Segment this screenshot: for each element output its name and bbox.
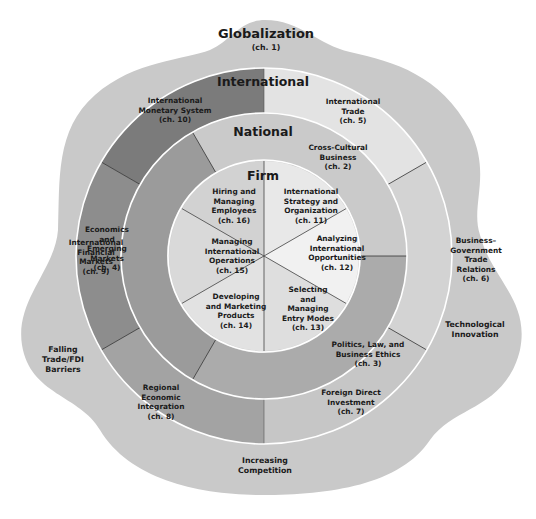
svg-text:Operations: Operations: [209, 256, 256, 265]
svg-text:(ch. 5): (ch. 5): [340, 116, 367, 125]
national-title: National: [233, 124, 292, 139]
svg-text:Barriers: Barriers: [45, 365, 81, 374]
svg-text:Business Ethics: Business Ethics: [336, 350, 401, 359]
globalization-chapter: (ch. 1): [252, 43, 280, 52]
svg-text:Business–: Business–: [456, 236, 497, 245]
svg-text:Selecting: Selecting: [289, 285, 328, 294]
svg-text:Increasing: Increasing: [242, 456, 288, 465]
svg-text:(ch. 10): (ch. 10): [159, 115, 191, 124]
force-increasing-competition: Increasing Competition: [238, 456, 292, 475]
svg-text:Trade: Trade: [341, 107, 364, 116]
svg-text:Analyzing: Analyzing: [317, 234, 358, 243]
svg-text:(ch. 16): (ch. 16): [218, 216, 250, 225]
svg-text:(ch. 11): (ch. 11): [295, 216, 327, 225]
svg-text:Economic: Economic: [141, 393, 180, 402]
international-title: International: [217, 74, 309, 89]
svg-text:and: and: [99, 235, 115, 244]
svg-text:(ch. 2): (ch. 2): [325, 162, 352, 171]
svg-text:Products: Products: [217, 311, 255, 320]
svg-text:Business: Business: [320, 153, 358, 162]
globalization-layer-diagram: Globalization (ch. 1) International Nati…: [0, 0, 536, 519]
svg-text:Government: Government: [450, 246, 502, 255]
svg-text:International: International: [148, 96, 202, 105]
svg-text:(ch. 15): (ch. 15): [216, 266, 248, 275]
svg-text:Employees: Employees: [212, 206, 257, 215]
svg-text:Managing: Managing: [214, 197, 255, 206]
svg-text:(ch. 4): (ch. 4): [94, 263, 121, 272]
svg-text:International: International: [284, 187, 338, 196]
svg-text:Trade/FDI: Trade/FDI: [42, 355, 84, 364]
svg-text:Hiring and: Hiring and: [212, 187, 256, 196]
svg-text:Cross-Cultural: Cross-Cultural: [308, 143, 367, 152]
svg-text:and: and: [300, 295, 316, 304]
svg-text:Emerging: Emerging: [87, 244, 127, 253]
firm-title: Firm: [247, 168, 279, 183]
svg-text:International: International: [205, 247, 259, 256]
svg-text:Developing: Developing: [213, 292, 260, 301]
svg-text:(ch. 6): (ch. 6): [463, 274, 490, 283]
svg-text:Entry Modes: Entry Modes: [282, 314, 335, 323]
force-technological-innovation: Technological Innovation: [445, 320, 505, 339]
globalization-title: Globalization: [218, 26, 314, 41]
svg-text:Economics: Economics: [85, 225, 129, 234]
svg-text:and Marketing: and Marketing: [206, 302, 266, 311]
svg-text:Monetary System: Monetary System: [138, 106, 211, 115]
svg-text:Competition: Competition: [238, 466, 292, 475]
svg-text:International: International: [326, 97, 380, 106]
svg-text:(ch. 7): (ch. 7): [338, 407, 365, 416]
svg-text:Managing: Managing: [212, 237, 253, 246]
svg-text:Foreign Direct: Foreign Direct: [321, 388, 381, 397]
svg-text:(ch. 12): (ch. 12): [321, 263, 353, 272]
svg-text:Technological: Technological: [445, 320, 505, 329]
svg-text:Politics, Law, and: Politics, Law, and: [332, 340, 405, 349]
svg-text:Investment: Investment: [327, 398, 375, 407]
svg-text:(ch. 13): (ch. 13): [292, 323, 324, 332]
svg-text:(ch. 8): (ch. 8): [148, 412, 175, 421]
svg-text:Strategy and: Strategy and: [284, 197, 338, 206]
svg-text:Markets: Markets: [90, 254, 124, 263]
svg-text:(ch. 3): (ch. 3): [355, 359, 382, 368]
svg-text:Integration: Integration: [138, 402, 185, 411]
svg-text:Trade: Trade: [464, 255, 487, 264]
svg-text:International: International: [310, 244, 364, 253]
svg-text:Innovation: Innovation: [451, 330, 498, 339]
svg-text:Falling: Falling: [48, 345, 77, 354]
svg-text:(ch. 14): (ch. 14): [220, 321, 252, 330]
svg-text:Relations: Relations: [456, 265, 496, 274]
svg-text:Organization: Organization: [284, 206, 338, 215]
svg-text:Managing: Managing: [288, 304, 329, 313]
svg-text:Regional: Regional: [143, 383, 179, 392]
svg-text:Opportunities: Opportunities: [308, 253, 366, 262]
